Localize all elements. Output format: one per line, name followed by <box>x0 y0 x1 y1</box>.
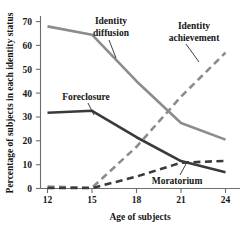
y-tick-label-50: 50 <box>23 65 33 75</box>
line-chart-plot: 70 60 50 40 30 20 10 0 12 15 18 21 24 Ag… <box>0 0 248 230</box>
y-tick-label-30: 30 <box>23 112 33 122</box>
y-tick-label-10: 10 <box>23 160 33 170</box>
x-tick-label-24: 24 <box>221 195 231 205</box>
annotation-foreclosure: Foreclosure <box>62 92 110 102</box>
y-tick-label-70: 70 <box>23 17 33 27</box>
x-tick-label-21: 21 <box>176 195 186 205</box>
annotation-identity-diffusion-line1: Identity <box>95 16 127 26</box>
y-tick-label-0: 0 <box>27 184 32 194</box>
y-axis-title: Percentage of subjects in each identity … <box>5 12 15 193</box>
x-tick-label-15: 15 <box>87 195 97 205</box>
y-tick-label-40: 40 <box>23 89 33 99</box>
annotation-identity-achievement-line2: achievement <box>169 33 220 43</box>
x-tick-label-18: 18 <box>132 195 142 205</box>
y-tick-label-20: 20 <box>23 136 33 146</box>
x-axis-title: Age of subjects <box>109 212 171 222</box>
y-tick-label-60: 60 <box>23 41 33 51</box>
chart-figure: 70 60 50 40 30 20 10 0 12 15 18 21 24 Ag… <box>0 0 248 230</box>
annotation-identity-diffusion-line2: diffusion <box>93 28 130 38</box>
annotation-identity-achievement-line1: Identity <box>178 21 210 31</box>
annotation-moratorium: Moratorium <box>152 176 203 186</box>
x-tick-label-12: 12 <box>43 195 53 205</box>
